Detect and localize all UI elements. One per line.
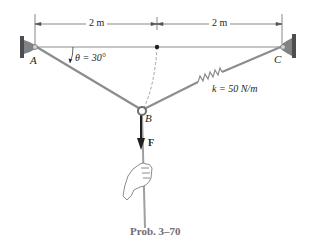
dimension-lines [35,14,282,46]
dimension-label-left: 2 m [86,17,107,28]
cable-BC [142,46,283,110]
spring-constant-label: k = 50 N/m [212,83,257,94]
dimension-label-right: 2 m [209,17,230,28]
point-label-B: B [145,112,152,124]
angle-label: θ = 30° [75,52,106,63]
midpoint-dot [155,45,159,49]
problem-figure: 2 m 2 m A B C θ = 30° k = 50 N/m F Prob.… [0,0,315,242]
support-C [281,34,297,58]
force-label: F [148,137,154,148]
dashed-arc [143,47,157,110]
point-label-A: A [30,54,37,66]
figure-caption: Prob. 3–70 [130,225,181,237]
point-label-C: C [274,53,281,65]
hand-icon [123,163,152,200]
diagram-canvas [0,0,315,242]
